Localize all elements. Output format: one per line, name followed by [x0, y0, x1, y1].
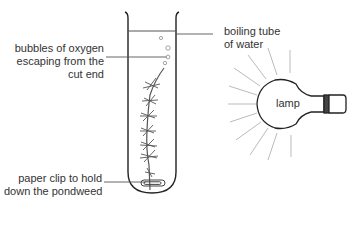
tube-label: boiling tube of water [224, 25, 280, 51]
clip-label: paper clip to hold down the pondweed [4, 172, 102, 198]
bubbles-label-line-3: cut end [6, 68, 104, 81]
pondweed [140, 68, 164, 190]
tube-label-line-2: of water [224, 38, 280, 51]
lamp-label: lamp [276, 97, 300, 110]
oxygen-bubbles [159, 36, 170, 64]
paper-clip [141, 180, 165, 186]
lamp [257, 80, 346, 129]
clip-label-line-2: down the pondweed [4, 185, 102, 198]
clip-label-line-1: paper clip to hold [4, 172, 102, 185]
tube-label-line-1: boiling tube [224, 25, 280, 38]
bubbles-label-line-1: bubbles of oxygen [6, 42, 104, 55]
bubbles-label-line-2: escaping from the [6, 55, 104, 68]
bubbles-label: bubbles of oxygen escaping from the cut … [6, 42, 104, 81]
